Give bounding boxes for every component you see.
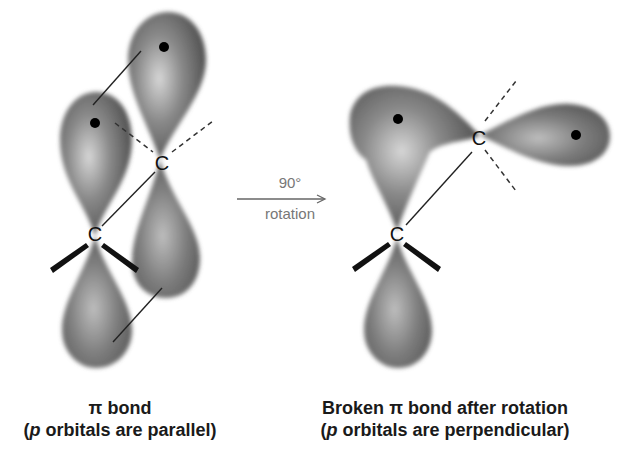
carbon-label-back: C	[155, 152, 169, 174]
right-caption-prefix: Broken	[322, 398, 389, 418]
left-caption-title-text: bond	[102, 398, 151, 418]
right-broken-pi-structure: C C	[350, 81, 610, 368]
p-italic: p	[29, 420, 40, 440]
pi-symbol: π	[389, 398, 403, 418]
rotation-arrow	[237, 195, 325, 203]
orbital-lobe-front-upper	[350, 86, 480, 231]
rotation-label: rotation	[240, 205, 340, 222]
left-caption-subtitle: (p orbitals are parallel)	[0, 419, 240, 441]
right-caption-subtitle: (p orbitals are perpendicular)	[255, 419, 635, 441]
right-caption: Broken π bond after rotation (p orbitals…	[255, 397, 635, 441]
carbon-label-front: C	[390, 223, 404, 245]
orbital-lobe-back-lower	[132, 160, 200, 298]
left-pi-bond-structure: C C	[50, 12, 213, 368]
wedge-bond-left	[352, 242, 391, 272]
rotation-angle-label: 90°	[255, 174, 325, 191]
orbital-lobe-back-right	[480, 104, 610, 166]
carbon-label-front: C	[88, 223, 102, 245]
pi-symbol: π	[89, 398, 103, 418]
right-caption-title: Broken π bond after rotation	[255, 397, 635, 419]
left-caption-title: π bond	[0, 397, 240, 419]
electron-dot	[571, 130, 581, 140]
right-caption-subtitle-text: orbitals are perpendicular)	[337, 420, 569, 440]
electron-dot	[90, 118, 100, 128]
electron-dot	[159, 42, 169, 52]
orbital-lobe-front-upper	[60, 92, 132, 236]
carbon-label-back: C	[472, 127, 486, 149]
left-caption: π bond (p orbitals are parallel)	[0, 397, 240, 441]
p-italic: p	[326, 420, 337, 440]
electron-dot	[393, 114, 403, 124]
dashed-bond-down	[485, 150, 516, 191]
right-caption-suffix: bond after rotation	[403, 398, 568, 418]
orbital-lobe-back-upper	[128, 12, 206, 160]
dashed-bond-up	[485, 81, 516, 121]
left-caption-subtitle-text: orbitals are parallel)	[40, 420, 216, 440]
